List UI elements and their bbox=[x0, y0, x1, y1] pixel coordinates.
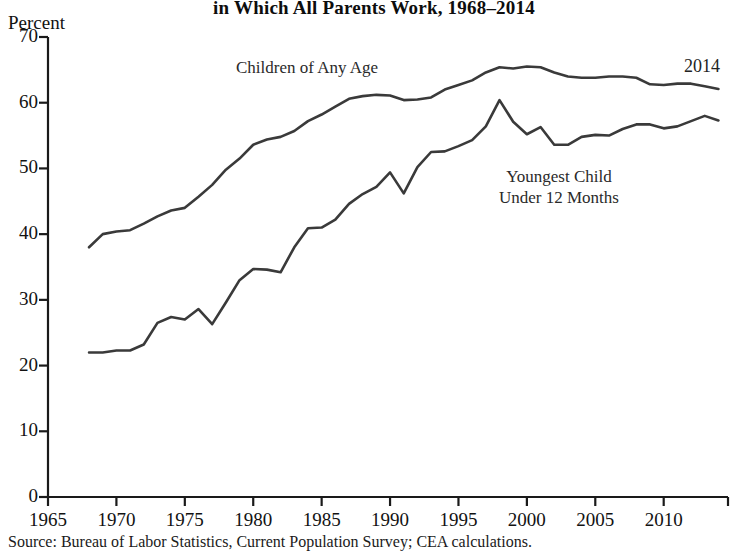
x-tick-label: 2000 bbox=[497, 509, 557, 531]
chart-figure: in Which All Parents Work, 1968–2014 Per… bbox=[0, 0, 748, 554]
y-tick-label: 30 bbox=[4, 288, 38, 310]
series-label-children-of-any-age: Children of Any Age bbox=[236, 57, 378, 78]
x-tick-label: 2005 bbox=[565, 509, 625, 531]
end-year-annotation: 2014 bbox=[684, 56, 720, 77]
x-tick-label: 1970 bbox=[86, 509, 146, 531]
series-line-youngest-child bbox=[89, 100, 718, 352]
chart-series bbox=[89, 67, 718, 353]
source-note: Source: Bureau of Labor Statistics, Curr… bbox=[8, 533, 532, 551]
y-tick-label: 50 bbox=[4, 156, 38, 178]
series-label-youngest-line2: Under 12 Months bbox=[499, 187, 619, 208]
y-tick-label: 0 bbox=[4, 485, 38, 507]
x-tick-label: 2010 bbox=[634, 509, 694, 531]
x-tick-label: 1985 bbox=[292, 509, 352, 531]
x-tick-label: 1995 bbox=[428, 509, 488, 531]
series-line-children-of-any-age bbox=[89, 67, 718, 248]
x-tick-label: 1975 bbox=[155, 509, 215, 531]
y-tick-label: 40 bbox=[4, 222, 38, 244]
y-tick-label: 10 bbox=[4, 419, 38, 441]
y-tick-label: 70 bbox=[4, 25, 38, 47]
series-label-youngest-child: Youngest Child Under 12 Months bbox=[499, 166, 619, 208]
chart-axes bbox=[39, 37, 728, 506]
x-tick-label: 1980 bbox=[223, 509, 283, 531]
x-tick-label: 1990 bbox=[360, 509, 420, 531]
chart-title-line2: in Which All Parents Work, 1968–2014 bbox=[0, 0, 748, 19]
series-label-youngest-line1: Youngest Child bbox=[499, 166, 619, 187]
line-chart-plot bbox=[0, 0, 748, 554]
y-tick-label: 60 bbox=[4, 91, 38, 113]
y-tick-label: 20 bbox=[4, 354, 38, 376]
x-tick-label: 1965 bbox=[18, 509, 78, 531]
